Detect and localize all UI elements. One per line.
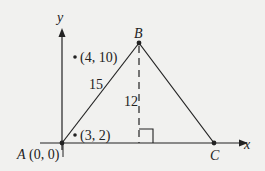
altitude-length-label: 12 — [124, 94, 138, 109]
side-ab-length-label: 15 — [89, 77, 103, 92]
side-bc — [139, 43, 214, 143]
point-3-2-dot — [73, 133, 77, 137]
right-angle-marker — [139, 129, 153, 143]
x-axis-label: x — [243, 137, 251, 152]
vertex-a-label: A — [16, 147, 26, 162]
vertex-b-label: B — [134, 26, 143, 41]
vertex-b-dot — [137, 41, 142, 46]
y-axis-arrow-icon — [59, 28, 66, 37]
vertex-a-dot — [60, 141, 65, 146]
triangle-diagram: y x B C A (0, 0) (4, 10) (3, 2) 15 12 — [0, 0, 265, 171]
vertex-c-label: C — [210, 148, 220, 163]
point-3-2-label: (3, 2) — [80, 128, 111, 144]
y-axis-label: y — [55, 10, 64, 25]
point-4-10-dot — [73, 55, 77, 59]
point-4-10-label: (4, 10) — [80, 50, 118, 66]
vertex-a-coordinates: (0, 0) — [29, 147, 60, 163]
vertex-c-dot — [212, 141, 217, 146]
x-axis — [40, 140, 248, 147]
y-axis — [59, 28, 66, 150]
